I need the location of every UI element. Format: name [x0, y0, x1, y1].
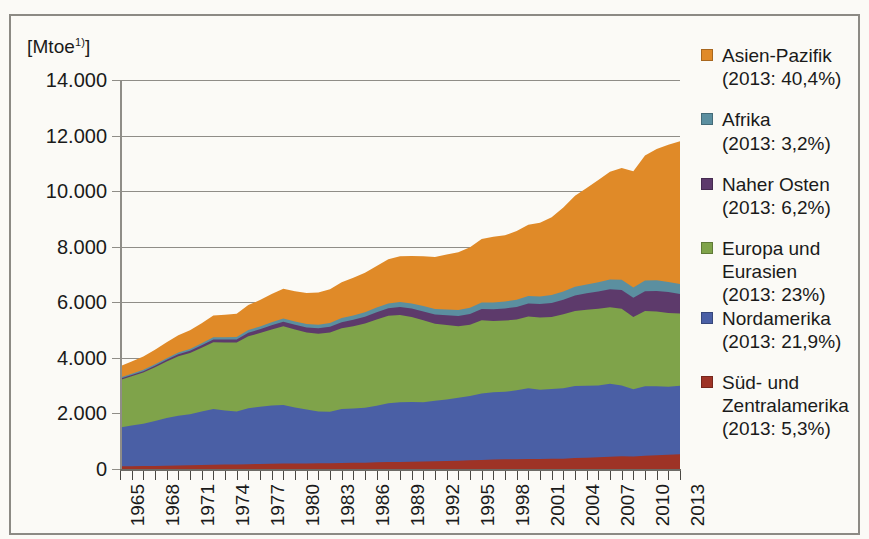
- legend-swatch-icon: [701, 242, 713, 254]
- x-axis-tick-label: 2004: [582, 484, 604, 526]
- x-axis-tick: [598, 471, 599, 480]
- x-axis-tick-label: 1986: [372, 484, 394, 526]
- legend-item-share: (2013: 21,9%): [722, 330, 869, 353]
- legend-item-share: (2013: 40,4%): [722, 67, 869, 90]
- x-axis-tick: [365, 471, 366, 480]
- x-axis-tick: [377, 471, 378, 480]
- x-axis-tick: [610, 471, 611, 480]
- legend-swatch-icon: [701, 113, 713, 125]
- x-axis-tick: [155, 471, 156, 480]
- x-axis-tick: [482, 471, 483, 480]
- x-axis-tick: [132, 471, 133, 480]
- legend-item-nordamerika[interactable]: Nordamerika(2013: 21,9%): [701, 307, 869, 353]
- x-axis-tick: [178, 471, 179, 480]
- x-axis-tick-label: 1977: [267, 484, 289, 526]
- x-axis-tick: [307, 471, 308, 480]
- x-axis-tick: [517, 471, 518, 480]
- legend-swatch-icon: [701, 312, 713, 324]
- y-axis-tick: [112, 358, 120, 359]
- x-axis-tick-label: 1971: [197, 484, 219, 526]
- x-axis-tick: [528, 471, 529, 480]
- x-axis-tick: [435, 471, 436, 480]
- x-axis-tick: [423, 471, 424, 480]
- x-axis-tick-label: 1968: [162, 484, 184, 526]
- plot-area: 14.00012.00010.0008.0006.0004.0002.0000 …: [120, 80, 680, 469]
- x-axis-tick-label: 2013: [687, 484, 709, 526]
- x-axis-tick: [645, 471, 646, 480]
- x-axis-tick: [412, 471, 413, 480]
- y-axis-tick-label: 6.000: [57, 291, 107, 314]
- x-axis-tick-label: 1983: [337, 484, 359, 526]
- x-axis-tick: [295, 471, 296, 480]
- legend-item-label: Süd- und Zentralamerika: [722, 371, 869, 417]
- legend-item-naher-osten[interactable]: Naher Osten(2013: 6,2%): [701, 173, 869, 219]
- legend-spacer: [701, 219, 869, 237]
- x-axis-tick: [260, 471, 261, 480]
- x-axis-tick-label: 2007: [617, 484, 639, 526]
- x-axis-tick: [190, 471, 191, 480]
- x-axis-tick: [167, 471, 168, 480]
- x-axis-tick: [575, 471, 576, 480]
- legend-item-s-d-und-zentralamerika[interactable]: Süd- und Zentralamerika(2013: 5,3%): [701, 371, 869, 441]
- x-axis-tick-label: 1980: [302, 484, 324, 526]
- x-axis-tick: [225, 471, 226, 480]
- x-axis-tick: [213, 471, 214, 480]
- chart-figure: [Mtoe1)] 14.00012.00010.0008.0006.0004.0…: [9, 14, 860, 535]
- legend-item-asien-pazifik[interactable]: Asien-Pazifik(2013: 40,4%): [701, 44, 869, 90]
- y-axis-line: [120, 80, 122, 469]
- x-axis-tick: [622, 471, 623, 480]
- x-axis-tick: [657, 471, 658, 480]
- x-axis-tick: [283, 471, 284, 480]
- y-axis-tick: [112, 469, 120, 470]
- legend-spacer: [701, 90, 869, 108]
- legend-item-share: (2013: 5,3%): [722, 417, 869, 440]
- x-axis-tick: [493, 471, 494, 480]
- x-axis-tick: [400, 471, 401, 480]
- x-axis-tick: [318, 471, 319, 480]
- y-axis-tick: [112, 302, 120, 303]
- y-axis-tick-label: 2.000: [57, 402, 107, 425]
- y-axis-tick: [112, 413, 120, 414]
- x-axis-tick: [633, 471, 634, 480]
- x-axis-tick: [587, 471, 588, 480]
- x-axis-tick: [202, 471, 203, 480]
- chart-legend: Asien-Pazifik(2013: 40,4%)Afrika(2013: 3…: [701, 44, 869, 440]
- legend-swatch-icon: [701, 49, 713, 61]
- y-axis-tick-label: 10.000: [46, 180, 107, 203]
- x-axis-tick: [505, 471, 506, 480]
- x-axis-tick: [552, 471, 553, 480]
- x-axis-tick: [447, 471, 448, 480]
- y-axis-tick-label: 12.000: [46, 124, 107, 147]
- x-axis-tick: [330, 471, 331, 480]
- x-axis-tick: [248, 471, 249, 480]
- x-axis-tick: [342, 471, 343, 480]
- x-axis-tick-label: 2010: [652, 484, 674, 526]
- x-axis-tick: [353, 471, 354, 480]
- y-axis-tick-label: 0: [96, 458, 107, 481]
- x-axis-tick: [668, 471, 669, 480]
- stacked-area-series: [120, 80, 680, 469]
- y-axis-tick: [112, 136, 120, 137]
- x-axis-tick-label: 1992: [442, 484, 464, 526]
- unit-label-bracket: ]: [85, 36, 90, 57]
- x-axis-tick-label: 1998: [512, 484, 534, 526]
- legend-item-label: Afrika: [722, 108, 869, 131]
- legend-spacer: [701, 353, 869, 371]
- y-axis-tick: [112, 191, 120, 192]
- x-axis-tick: [272, 471, 273, 480]
- x-axis-tick: [563, 471, 564, 480]
- x-axis-tick-label: 1989: [407, 484, 429, 526]
- legend-item-europa-und-eurasien[interactable]: Europa und Eurasien(2013: 23%): [701, 237, 869, 307]
- legend-item-label: Naher Osten: [722, 173, 869, 196]
- legend-item-label: Asien-Pazifik: [722, 44, 869, 67]
- legend-item-afrika[interactable]: Afrika(2013: 3,2%): [701, 108, 869, 154]
- unit-footnote-marker: 1): [75, 36, 85, 48]
- y-axis-tick-label: 4.000: [57, 346, 107, 369]
- x-axis-tick-label: 2001: [547, 484, 569, 526]
- x-axis-tick: [680, 471, 681, 480]
- y-axis-tick: [112, 80, 120, 81]
- y-axis-tick-label: 8.000: [57, 235, 107, 258]
- x-axis-tick: [120, 471, 121, 480]
- x-axis-tick: [470, 471, 471, 480]
- legend-item-share: (2013: 23%): [722, 283, 869, 306]
